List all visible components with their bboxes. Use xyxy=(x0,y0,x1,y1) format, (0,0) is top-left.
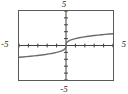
graph-viewport: 5 -5 5 -5 xyxy=(0,0,128,94)
y-min-label: -5 xyxy=(0,85,128,94)
plot-canvas xyxy=(19,11,113,80)
x-min-label: -5 xyxy=(1,40,9,49)
y-max-label: 5 xyxy=(0,0,128,9)
plot-frame xyxy=(18,10,114,81)
x-max-label: 5 xyxy=(122,40,127,49)
